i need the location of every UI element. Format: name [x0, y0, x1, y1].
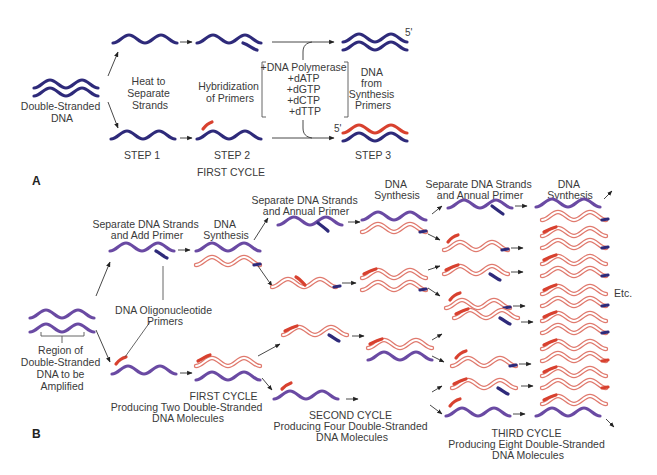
arrow-curve: [303, 120, 312, 138]
arrow: [428, 288, 440, 296]
arrow: [254, 218, 268, 240]
arrow: [432, 334, 442, 340]
double-stranded-dna-a: [34, 80, 98, 96]
c1-synth-bottom: [196, 355, 260, 380]
heat-label: Heat to Separate Strands: [127, 75, 173, 111]
panel-label-a: A: [32, 174, 41, 188]
dna-synthesis-label-1: DNA Synthesis: [203, 218, 249, 241]
step1-label: STEP 1: [124, 149, 160, 161]
arrow: [606, 419, 614, 427]
five-prime-top: 5': [405, 27, 413, 38]
arrow: [432, 356, 444, 362]
separate-annual-primer-label-2: Separate DNA Strands and Annual Primer: [425, 178, 534, 201]
c3-strand-7: [452, 379, 516, 394]
first-cycle-title: FIRST CYCLE Producing Two Double-Strande…: [111, 390, 266, 424]
product-label: DNA from Synthesis Primers: [349, 66, 397, 111]
panel-a: Double-Stranded DNA Heat to Separate Str…: [21, 27, 413, 188]
etc-label: Etc.: [614, 287, 632, 299]
c2-synth-3: [368, 339, 432, 360]
first-cycle-label-a: FIRST CYCLE: [197, 166, 265, 178]
start-label: Double-Stranded DNA: [21, 100, 103, 124]
arrow: [432, 206, 442, 214]
step2-bottom-strand: [197, 122, 261, 139]
c2-strand-2: [272, 277, 340, 287]
arrow: [108, 102, 118, 128]
arrow: [262, 378, 272, 390]
arrow: [96, 262, 110, 296]
arrow: [428, 266, 440, 270]
hybridization-label: Hybridization of Primers: [198, 80, 262, 104]
pcr-diagram: Double-Stranded DNA Heat to Separate Str…: [0, 0, 657, 475]
arrow: [430, 405, 442, 414]
arrow: [428, 234, 440, 240]
arrow: [604, 191, 612, 199]
c2-strand-3: [283, 326, 347, 341]
c2-synth-1: [362, 212, 426, 232]
c3-strand-4: [446, 293, 510, 308]
primer-pointer: [125, 322, 150, 357]
separate-add-primer-label: Separate DNA Strands and Add Primer: [92, 218, 201, 241]
third-cycle-title: THIRD CYCLE Producing Eight Double-Stran…: [448, 427, 607, 461]
second-cycle-title: SECOND CYCLE Producing Four Double-Stran…: [273, 409, 430, 443]
arrow: [432, 386, 442, 392]
region-label: Region of Double-Stranded DNA to be Ampl…: [21, 344, 103, 392]
c2-strand-4: [274, 383, 338, 399]
c3-strand-5: [454, 309, 518, 324]
double-stranded-dna-b: [30, 310, 94, 332]
dna-synthesis-label-3: DNA Synthesis: [547, 178, 593, 201]
c3-strand-2: [444, 235, 508, 250]
separate-annual-primer-label-1: Separate DNA Strands and Annual Primer: [251, 194, 360, 217]
c1-synth-top: [196, 243, 260, 265]
region-bracket: [41, 332, 84, 343]
arrow: [258, 344, 280, 356]
dna-synthesis-label-2: DNA Synthesis: [374, 178, 420, 201]
step3-bottom-duplex: [343, 125, 407, 141]
step3-label: STEP 3: [355, 149, 391, 161]
arrow: [108, 52, 118, 76]
step1-top-strand: [113, 35, 177, 43]
final-products: [536, 199, 608, 416]
c2-synth-2: [362, 269, 426, 290]
step2-label: STEP 2: [214, 149, 250, 161]
step3-top-duplex: [343, 34, 407, 50]
c3-strand-6: [452, 351, 516, 366]
c1-top-strand: [110, 243, 174, 258]
step1-bottom-strand: [111, 131, 175, 139]
c1-bottom-strand: [112, 357, 176, 374]
c2-strand-1: [278, 217, 342, 231]
c3-strand-3: [444, 265, 508, 280]
panel-b: Region of Double-Stranded DNA to be Ampl…: [21, 178, 632, 461]
five-prime-bottom: 5': [334, 123, 342, 134]
oligo-primers-label: DNA Oligonucleotide Primers: [115, 304, 215, 327]
c3-strand-1: [448, 200, 512, 214]
arrow: [258, 266, 272, 286]
c3-strand-8: [446, 399, 510, 416]
panel-label-b: B: [32, 427, 41, 441]
step2-top-strand: [197, 35, 261, 50]
arrow-curve: [303, 42, 312, 60]
reagent-list: +DNA Polymerase +dATP +dGTP +dCTP +dTTP: [261, 61, 350, 117]
